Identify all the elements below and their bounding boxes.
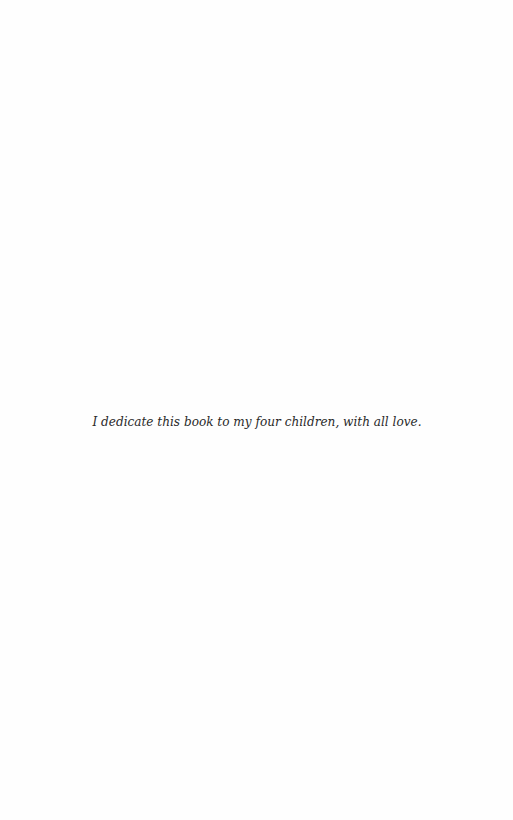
book-page: I dedicate this book to my four children… (0, 0, 513, 820)
dedication-text: I dedicate this book to my four children… (92, 413, 421, 431)
dedication-text-container: I dedicate this book to my four children… (0, 413, 513, 431)
